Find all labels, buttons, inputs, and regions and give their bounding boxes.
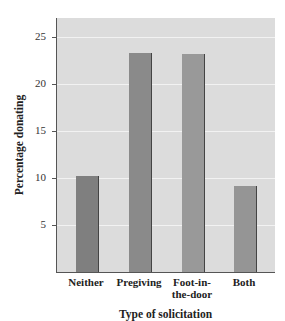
y-tick-label: 5 [16,218,46,230]
gridline [57,37,275,38]
x-label-text-line1: Foot-in- [162,276,222,288]
gridline [57,131,275,132]
x-label-both: Both [214,276,274,288]
y-tick-mark [52,225,57,226]
x-label-text: Neither [68,276,103,288]
x-label-pregiving: Pregiving [109,276,169,288]
x-label-text: Both [233,276,256,288]
bar-foot-in-the-door [182,54,205,272]
y-tick-label: 20 [16,77,46,89]
y-tick-label: 25 [16,30,46,42]
bar-pregiving [129,53,152,272]
bar-neither [76,176,99,272]
y-tick-label: 10 [16,171,46,183]
x-label-foot-in-the-door: Foot-in- the-door [162,276,222,300]
y-tick-mark [52,37,57,38]
gridline [57,84,275,85]
y-tick-mark [52,178,57,179]
x-label-text: Pregiving [116,276,161,288]
y-tick-mark [52,84,57,85]
y-tick-mark [52,131,57,132]
y-tick-label: 15 [16,124,46,136]
x-label-text-line2: the-door [162,288,222,300]
plot-area [56,18,275,273]
x-axis-title: Type of solicitation [56,308,275,320]
x-label-neither: Neither [56,276,116,288]
bar-both [234,186,257,272]
